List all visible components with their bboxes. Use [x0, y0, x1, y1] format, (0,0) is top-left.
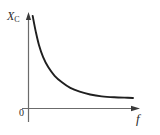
y-axis-arrowhead [26, 12, 31, 20]
y-axis-label: XC [7, 10, 20, 24]
x-axis-label: f [136, 112, 140, 125]
reactance-curve [33, 16, 133, 98]
capacitive-reactance-figure: XC f 0 [0, 0, 160, 135]
y-axis-subscript: C [14, 15, 19, 24]
origin-label: 0 [19, 108, 24, 118]
